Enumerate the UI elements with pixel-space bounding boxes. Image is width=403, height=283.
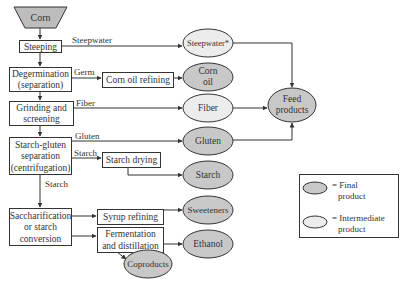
label-syrup-refining: Syrup refining (103, 212, 158, 222)
legend-final-label-2: product (338, 191, 366, 201)
legend-intermediate-label-1: = Intermediate (332, 213, 385, 223)
stream-label-gluten: Gluten (75, 131, 100, 141)
label-starch-gluten-2: separation (21, 151, 60, 161)
label-saccharification-1: Saccharification (10, 211, 72, 221)
label-corn-oil-refining: Corn oil refining (106, 75, 170, 85)
label-grinding-2: screening (23, 114, 60, 124)
arrow-steepwater-to-feed (233, 43, 292, 87)
legend: = Final product = Intermediate product (300, 175, 399, 238)
label-starch-gluten-3: (centrifugation) (11, 163, 71, 174)
label-corn-oil-1: Corn (199, 66, 218, 76)
label-steepwater: Steepwater* (187, 38, 229, 48)
label-ethanol: Ethanol (193, 239, 223, 249)
arrow-coproducts (117, 252, 126, 259)
stream-label-steepwater: Steepwater (72, 35, 112, 45)
label-degermination-1: Degermination (12, 69, 69, 79)
arrow-gluten-to-feed (233, 123, 292, 140)
stream-label-starch-drying: Starch (74, 148, 97, 158)
label-feed-1: Feed (283, 94, 302, 104)
label-corn-oil-2: oil (203, 77, 213, 87)
stream-label-fiber: Fiber (76, 98, 95, 108)
label-sweeteners: Sweeteners (188, 205, 229, 215)
label-degermination-2: (separation) (18, 80, 63, 91)
legend-intermediate-label-2: product (338, 224, 366, 234)
connectors (40, 28, 292, 259)
label-starch-gluten-1: Starch-gluten (15, 140, 66, 150)
label-steeping: Steeping (24, 42, 57, 52)
label-fiber: Fiber (198, 103, 219, 113)
label-fermentation-2: and distillation (102, 241, 159, 251)
corn-input: Corn (14, 7, 67, 28)
label-saccharification-2: or starch (24, 222, 57, 232)
label-coproducts: Coproducts (127, 259, 169, 269)
label-feed-2: products (276, 105, 309, 115)
stream-label-germ: Germ (74, 67, 95, 77)
label-grinding-1: Grinding and (16, 103, 67, 113)
corn-label: Corn (31, 12, 51, 23)
label-fermentation-1: Fermentation (105, 229, 156, 239)
label-starch-drying: Starch drying (106, 155, 158, 165)
process-flow-diagram: Corn Steeping Degermination (separation)… (0, 0, 403, 283)
legend-intermediate-swatch (303, 216, 327, 228)
label-gluten: Gluten (195, 136, 221, 146)
arrow-starch-product (128, 167, 182, 175)
label-saccharification-3: conversion (20, 234, 62, 244)
legend-final-label-1: = Final (332, 180, 358, 190)
label-starch: Starch (196, 170, 221, 180)
stream-label-starch-down: Starch (45, 179, 68, 189)
legend-final-swatch (303, 182, 327, 194)
